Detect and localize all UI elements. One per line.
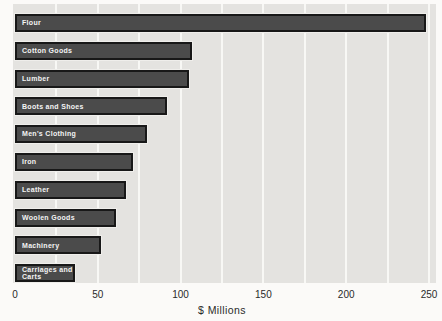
gridline [221, 4, 223, 283]
bar-label-machinery: Machinery [17, 242, 59, 250]
gridline [345, 4, 347, 283]
bar-chart: FlourCotton GoodsLumberBoots and ShoesMe… [0, 0, 442, 321]
bar-label-leather: Leather [17, 186, 49, 194]
bar-lumber: Lumber [15, 70, 189, 88]
x-tick-label-250: 250 [421, 289, 438, 300]
bar-label-men-s-clothing: Men's Clothing [17, 130, 76, 138]
bar-men-s-clothing: Men's Clothing [15, 125, 147, 143]
bar-iron: Iron [15, 153, 133, 171]
bar-label-carriages-and-carts: Carriages and Carts [17, 266, 73, 281]
x-tick-label-50: 50 [92, 289, 103, 300]
bar-label-cotton-goods: Cotton Goods [17, 47, 72, 55]
bar-label-boots-and-shoes: Boots and Shoes [17, 103, 84, 111]
bar-cotton-goods: Cotton Goods [15, 42, 192, 60]
bar-label-lumber: Lumber [17, 75, 49, 83]
gridline [387, 4, 389, 283]
bar-flour: Flour [15, 14, 426, 32]
bar-woolen-goods: Woolen Goods [15, 209, 116, 227]
x-tick-label-150: 150 [255, 289, 272, 300]
x-tick-label-100: 100 [172, 289, 189, 300]
bar-leather: Leather [15, 181, 126, 199]
x-tick-label-200: 200 [338, 289, 355, 300]
gridline [262, 4, 264, 283]
plot-area: FlourCotton GoodsLumberBoots and ShoesMe… [13, 4, 436, 283]
bar-machinery: Machinery [15, 236, 101, 254]
x-axis-title: $ Millions [198, 304, 246, 316]
bar-label-flour: Flour [17, 19, 41, 27]
gridline [428, 4, 430, 283]
gridline [304, 4, 306, 283]
page-background: { "chart_data": { "type": "bar", "orient… [0, 0, 442, 321]
x-tick-label-0: 0 [12, 289, 18, 300]
bar-label-woolen-goods: Woolen Goods [17, 214, 75, 222]
bar-label-iron: Iron [17, 158, 36, 166]
bar-boots-and-shoes: Boots and Shoes [15, 97, 167, 115]
bar-carriages-and-carts: Carriages and Carts [15, 264, 75, 282]
